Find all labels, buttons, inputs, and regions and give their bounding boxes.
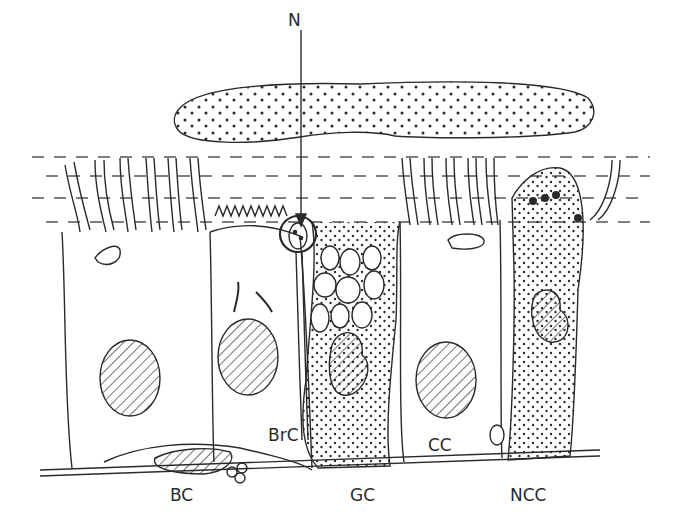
epithelium-diagram — [0, 0, 676, 522]
nucleus — [100, 340, 160, 416]
nucleus — [416, 342, 476, 418]
cilia-right — [402, 158, 498, 225]
label-ncc: NCC — [510, 485, 546, 505]
cilia-left — [65, 158, 206, 232]
label-n: N — [288, 10, 301, 30]
nucleus — [154, 449, 231, 474]
nucleus — [218, 319, 278, 395]
label-bc: BC — [170, 485, 193, 505]
label-gc: GC — [350, 485, 375, 505]
mucus-layer — [174, 82, 593, 142]
microvilli — [215, 206, 287, 216]
label-cc: CC — [428, 435, 452, 455]
ciliated-cell-right — [400, 220, 502, 462]
label-brc: BrC — [268, 425, 299, 445]
